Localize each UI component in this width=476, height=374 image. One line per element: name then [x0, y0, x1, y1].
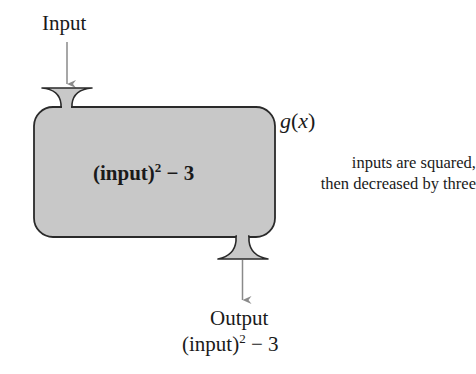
function-letter: g [280, 108, 291, 133]
input-label: Input [42, 13, 86, 34]
function-name: g(x) [280, 110, 315, 132]
output-base: (input) [182, 332, 239, 356]
output-operation: − 3 [246, 332, 279, 356]
rule-operation: − 3 [161, 161, 194, 185]
output-exponent: 2 [239, 331, 246, 346]
function-close-paren: ) [308, 108, 315, 133]
rule-exponent: 2 [155, 160, 162, 175]
description-line-2: then decreased by three [280, 173, 476, 194]
output-label: Output [210, 308, 268, 329]
function-variable: x [298, 108, 308, 133]
rule-base: (input) [93, 161, 155, 185]
output-expression: (input)2 − 3 [182, 334, 279, 355]
function-rule: (input)2 − 3 [93, 163, 194, 184]
input-funnel [42, 88, 92, 108]
output-funnel [218, 236, 268, 259]
description-line-1: inputs are squared, [280, 152, 476, 173]
function-description: inputs are squared, then decreased by th… [280, 152, 476, 194]
